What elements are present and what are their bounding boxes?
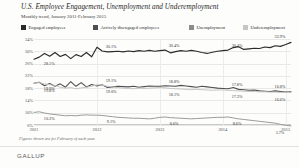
data-point-label: 19.8% — [44, 87, 55, 92]
legend-item: Underemployment — [243, 25, 285, 30]
y-axis-tick-label: 30% — [25, 49, 33, 54]
legend-item: Actively disengaged employees — [93, 25, 159, 30]
data-point-label: 16.8% — [275, 83, 286, 88]
chart-legend: Engaged employeesActively disengaged emp… — [21, 25, 291, 35]
gallup-logo: GALLUP — [17, 152, 45, 159]
x-axis-tick-label: 2012 — [93, 127, 102, 132]
y-axis-tick-label: 34% — [25, 37, 33, 42]
data-point-label: 17.3% — [232, 94, 243, 99]
x-axis-tick-label: 2015 — [281, 127, 290, 132]
data-point-label: 30.4% — [169, 43, 180, 48]
data-point-label: 18.1% — [169, 91, 180, 96]
data-point-label: 8.6% — [170, 121, 179, 126]
data-point-label: 10.3% — [44, 115, 55, 120]
series-line — [34, 82, 291, 92]
legend-item: Engaged employees — [21, 25, 65, 30]
data-point-label: 18.8% — [169, 78, 180, 83]
legend-swatch-icon — [21, 25, 26, 30]
series-lines — [34, 39, 291, 125]
data-point-label: 30.1% — [106, 43, 117, 48]
chart-subtitle: Monthly trend, January 2011-February 201… — [21, 14, 106, 19]
data-point-label: 19.1% — [106, 77, 117, 82]
x-axis-tick-label: 2011 — [30, 127, 39, 132]
chart-page: U.S. Employee Engagement, Unemployment a… — [0, 0, 299, 168]
y-axis-labels: 34%30%26%22%18%14%10%6% — [17, 39, 33, 125]
footer-divider — [0, 146, 299, 147]
data-point-label: 16.6% — [275, 97, 286, 102]
series-line — [34, 42, 291, 59]
y-axis-tick-label: 26% — [25, 61, 33, 66]
data-point-label: 8.6% — [233, 121, 242, 126]
data-point-label: 19.0% — [106, 89, 117, 94]
legend-swatch-icon — [243, 25, 248, 30]
legend-label: Engaged employees — [29, 25, 66, 30]
data-point-label: 32.9% — [275, 34, 286, 39]
chart-footnote: Figures shown are for February of each y… — [19, 136, 95, 141]
series-line — [34, 83, 291, 93]
y-axis-tick-label: 14% — [25, 98, 33, 103]
data-point-label: 9.1% — [107, 119, 116, 124]
legend-swatch-icon — [93, 25, 98, 30]
y-axis-tick-label: 10% — [25, 110, 33, 115]
legend-label: Unemployment — [197, 25, 226, 30]
x-axis-tick-label: 2013 — [155, 127, 164, 132]
x-axis-tick-label: 2014 — [218, 127, 227, 132]
y-axis-tick-label: 22% — [25, 73, 33, 78]
legend-label: Actively disengaged employees — [101, 25, 159, 30]
legend-swatch-icon — [189, 25, 194, 30]
x-axis-labels: 20112012201320142015 — [34, 127, 291, 135]
y-axis-tick-label: 18% — [25, 86, 33, 91]
data-point-label: 17.8% — [232, 81, 243, 86]
page-title: U.S. Employee Engagement, Unemployment a… — [21, 3, 218, 11]
data-point-label: 28.1% — [44, 61, 55, 66]
plot-area: 28.1%30.1%30.4%30.4%32.9%19.9%19.1%18.8%… — [34, 39, 291, 125]
legend-item: Unemployment — [189, 25, 225, 30]
series-line — [34, 112, 291, 126]
data-point-label: 30.4% — [232, 43, 243, 48]
grid-line — [34, 125, 291, 126]
legend-label: Underemployment — [251, 25, 285, 30]
